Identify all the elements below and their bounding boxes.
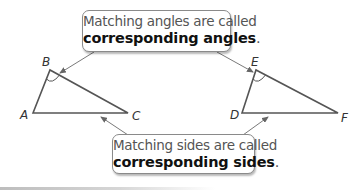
vertex-label-b: B [42,56,50,68]
triangle-abc [33,70,128,113]
term-corresponding-angles: corresponding angles [83,30,256,46]
vertex-label-c: C [132,110,140,122]
callout-sides-term-line: corresponding sides. [113,154,254,171]
arrow-to-side-ac [101,117,128,135]
term-corresponding-sides: corresponding sides [113,154,275,170]
arrow-to-angle-b [60,52,94,73]
corresponding-parts-diagram: B A C E D F Matching angles are called c… [0,0,359,190]
callout-sides-line1: Matching sides are called [113,137,254,154]
arrow-to-side-df [243,117,268,135]
callout-corresponding-sides: Matching sides are called corresponding … [112,134,255,174]
arrow-to-angle-e [217,52,253,72]
callout-sides-period: . [275,154,279,170]
vertex-label-d: D [230,109,239,121]
callout-corresponding-angles: Matching angles are called corresponding… [82,10,231,52]
callout-angles-line1: Matching angles are called [83,13,230,30]
triangle-def [242,70,338,113]
vertex-label-a: A [20,109,28,121]
vertex-label-e: E [251,56,259,68]
vertex-label-f: F [341,112,348,124]
bottom-divider [0,187,215,190]
callout-angles-period: . [256,30,260,46]
callout-angles-term-line: corresponding angles. [83,30,230,47]
